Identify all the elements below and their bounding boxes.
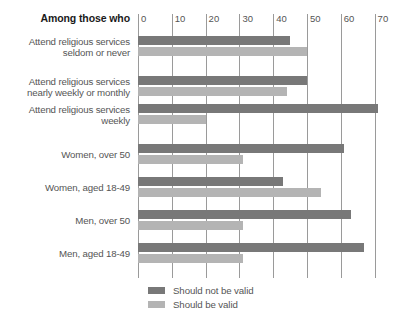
gridline bbox=[307, 14, 308, 272]
x-tick-label: 50 bbox=[307, 13, 321, 25]
x-tick-label: 10 bbox=[172, 13, 186, 25]
axis-tick-mark bbox=[239, 272, 240, 278]
legend-swatch-icon bbox=[148, 287, 165, 294]
category-label: Women, over 50 bbox=[61, 149, 130, 160]
x-tick-label: 0 bbox=[138, 13, 146, 25]
plot-area: 010203040506070 bbox=[138, 0, 407, 325]
x-tick-label: 30 bbox=[239, 13, 253, 25]
gridline bbox=[375, 14, 376, 272]
axis-tick-mark bbox=[138, 272, 139, 278]
legend-swatch-icon bbox=[148, 301, 165, 308]
bar-should-not-be-valid bbox=[138, 177, 283, 186]
category-label: Attend religious services nearly weekly … bbox=[27, 76, 130, 99]
bar-should-not-be-valid bbox=[138, 36, 290, 45]
axis-tick-mark bbox=[172, 272, 173, 278]
grouped-bar-chart: Among those who Attend religious service… bbox=[0, 0, 407, 325]
legend-label: Should be valid bbox=[173, 299, 238, 310]
bar-should-be-valid bbox=[138, 87, 287, 96]
bar-should-be-valid bbox=[138, 155, 243, 164]
x-tick-label: 60 bbox=[341, 13, 355, 25]
axis-tick-mark bbox=[206, 272, 207, 278]
bar-should-not-be-valid bbox=[138, 243, 364, 252]
gridline bbox=[341, 14, 342, 272]
legend-item: Should not be valid bbox=[148, 283, 254, 297]
label-column-header: Among those who bbox=[41, 12, 131, 24]
category-label-column: Among those who Attend religious service… bbox=[0, 0, 134, 325]
category-label: Women, aged 18-49 bbox=[45, 182, 130, 193]
category-label: Attend religious services seldom or neve… bbox=[29, 36, 130, 59]
axis-tick-mark bbox=[273, 272, 274, 278]
axis-tick-mark bbox=[341, 272, 342, 278]
x-tick-label: 20 bbox=[206, 13, 220, 25]
axis-tick-mark bbox=[307, 272, 308, 278]
bar-should-be-valid bbox=[138, 47, 307, 56]
bar-should-be-valid bbox=[138, 188, 321, 197]
legend: Should not be validShould be valid bbox=[148, 283, 254, 311]
bar-should-not-be-valid bbox=[138, 76, 307, 85]
axis-tick-mark bbox=[375, 272, 376, 278]
category-label: Men, aged 18-49 bbox=[59, 248, 130, 259]
bar-should-not-be-valid bbox=[138, 104, 378, 113]
bar-should-be-valid bbox=[138, 254, 243, 263]
legend-label: Should not be valid bbox=[173, 285, 254, 296]
bar-should-be-valid bbox=[138, 221, 243, 230]
bar-should-be-valid bbox=[138, 115, 206, 124]
bar-should-not-be-valid bbox=[138, 210, 351, 219]
category-label: Men, over 50 bbox=[75, 215, 130, 226]
x-tick-label: 70 bbox=[375, 13, 389, 25]
category-label: Attend religious services weekly bbox=[29, 104, 130, 127]
x-tick-label: 40 bbox=[273, 13, 287, 25]
bar-should-not-be-valid bbox=[138, 144, 344, 153]
legend-item: Should be valid bbox=[148, 297, 254, 311]
